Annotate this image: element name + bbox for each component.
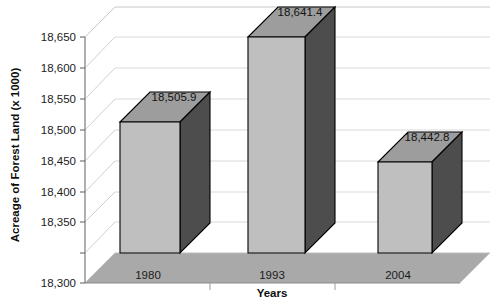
- x-tick-label-1993: 1993: [259, 269, 285, 281]
- bar-2004[interactable]: [378, 132, 462, 253]
- y-tick-label-18350: 18,350: [41, 216, 76, 228]
- x-axis-title: Years: [257, 287, 288, 299]
- x-tick-label-2004: 2004: [385, 269, 411, 281]
- chart-container: 18,650 18,600 18,550 18,500 18,450 18,40…: [0, 0, 501, 304]
- y-axis-ticks: [80, 37, 85, 283]
- bar-chart-3d: 18,650 18,600 18,550 18,500 18,450 18,40…: [0, 0, 501, 304]
- y-tick-label-18300: 18,300: [41, 277, 76, 289]
- y-tick-label-18450: 18,450: [41, 155, 76, 167]
- y-tick-label-18550: 18,550: [41, 93, 76, 105]
- bar-1993-front: [248, 37, 305, 253]
- y-tick-label-18500: 18,500: [41, 124, 76, 136]
- y-tick-label-18600: 18,600: [41, 62, 76, 74]
- bar-2004-front: [378, 162, 432, 253]
- x-tick-label-1980: 1980: [135, 269, 161, 281]
- bar-2004-value-label: 18,442.8: [405, 131, 450, 143]
- y-tick-label-18400: 18,400: [41, 186, 76, 198]
- bar-1980-front: [120, 122, 180, 253]
- y-tick-label-18650: 18,650: [41, 31, 76, 43]
- bar-1993[interactable]: [248, 7, 335, 253]
- bar-1980[interactable]: [120, 92, 210, 253]
- y-axis-title: Acreage of Forest Land (x 1000): [9, 68, 21, 243]
- bar-1993-value-label: 18,641.4: [278, 6, 323, 18]
- bar-1980-value-label: 18,505.9: [152, 91, 197, 103]
- bar-1993-side: [305, 7, 335, 253]
